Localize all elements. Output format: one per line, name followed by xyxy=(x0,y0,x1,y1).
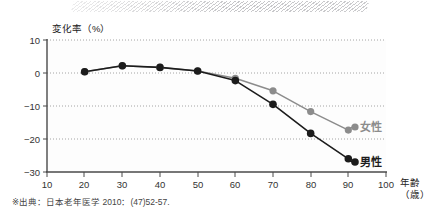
line-chart: 10 0 −10 −20 −30 10 20 30 40 50 60 70 80… xyxy=(0,0,440,218)
x-tick-label-90: 90 xyxy=(343,179,354,190)
legend-marker-female xyxy=(351,123,358,130)
x-tick-label-60: 60 xyxy=(230,179,241,190)
x-axis-ticks xyxy=(47,172,386,177)
series-label-male: 男性 xyxy=(360,155,382,168)
x-axis-title-line1: 年齢 xyxy=(400,177,420,188)
x-tick-label-20: 20 xyxy=(79,179,90,190)
data-point-male-60 xyxy=(232,77,240,85)
y-tick-label-m10: −10 xyxy=(24,101,40,112)
x-axis-title-line2: （歳） xyxy=(400,189,430,200)
x-tick-label-10: 10 xyxy=(42,179,53,190)
data-point-male-20 xyxy=(81,68,89,76)
y-axis-title: 変化率（%） xyxy=(52,23,110,34)
data-point-female-70 xyxy=(269,87,276,94)
x-tick-label-70: 70 xyxy=(268,179,279,190)
legend-marker-male xyxy=(351,158,359,166)
data-point-male-40 xyxy=(156,64,164,72)
source-note: ※出典：日本老年医学 2010：(47)52-57. xyxy=(12,195,170,207)
y-tick-label-m20: −20 xyxy=(24,134,40,145)
x-tick-label-50: 50 xyxy=(193,179,204,190)
data-point-male-50 xyxy=(194,67,202,75)
data-point-female-90 xyxy=(345,126,352,133)
x-tick-label-80: 80 xyxy=(306,179,317,190)
data-point-male-90 xyxy=(345,155,353,163)
y-tick-label-0: 0 xyxy=(35,68,40,79)
series-label-female: 女性 xyxy=(360,120,382,133)
y-tick-label-10: 10 xyxy=(29,35,40,46)
x-tick-label-100: 100 xyxy=(378,179,394,190)
data-point-male-70 xyxy=(269,101,277,109)
chart-figure: 10 0 −10 −20 −30 10 20 30 40 50 60 70 80… xyxy=(0,0,440,218)
x-tick-label-30: 30 xyxy=(117,179,128,190)
x-tick-label-40: 40 xyxy=(155,179,166,190)
data-point-female-80 xyxy=(307,108,314,115)
data-point-male-30 xyxy=(119,62,127,70)
data-point-male-80 xyxy=(307,130,315,138)
y-tick-label-m30: −30 xyxy=(24,167,40,178)
